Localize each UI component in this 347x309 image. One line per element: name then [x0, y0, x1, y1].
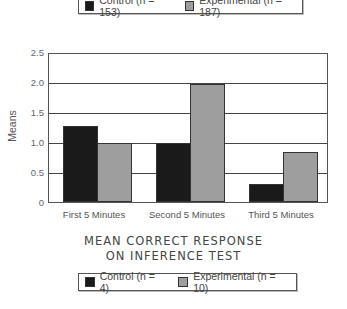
gridline [49, 83, 327, 84]
bar-control [249, 184, 284, 202]
experimental-swatch [185, 1, 194, 11]
y-tick: 2.5 [14, 47, 44, 58]
y-tick: 2.0 [14, 77, 44, 88]
bar-experimental [190, 84, 225, 202]
legend-item-control: Control (n = 153) [85, 0, 171, 18]
legend-top: Control (n = 153) Experimental (n = 187) [78, 0, 303, 14]
control-swatch [85, 277, 95, 287]
bar-control [63, 126, 98, 202]
legend-label: Control (n = 4) [100, 270, 165, 294]
control-swatch [85, 1, 94, 11]
legend-bottom: Control (n = 4) Experimental (n = 10) [78, 273, 297, 291]
plot-area [48, 53, 328, 203]
y-tick: 1.0 [14, 137, 44, 148]
x-tick: Third 5 Minutes [231, 209, 331, 220]
x-tick: Second 5 Minutes [137, 209, 237, 220]
chart-title: MEAN CORRECT RESPONSE ON INFERENCE TEST [0, 234, 347, 264]
title-line-1: MEAN CORRECT RESPONSE [0, 234, 347, 249]
title-line-2: ON INFERENCE TEST [0, 249, 347, 264]
y-tick: 1.5 [14, 107, 44, 118]
bar-experimental [97, 143, 132, 202]
y-tick: 0.5 [14, 167, 44, 178]
legend-label: Control (n = 153) [99, 0, 171, 18]
y-tick: 0 [14, 197, 44, 208]
legend-label: Experimental (n = 10) [193, 270, 290, 294]
x-tick: First 5 Minutes [44, 209, 144, 220]
legend-item-experimental: Experimental (n = 187) [185, 0, 296, 18]
legend-item-control: Control (n = 4) [85, 270, 164, 294]
experimental-swatch [178, 277, 188, 287]
gridline [49, 113, 327, 114]
legend-item-experimental: Experimental (n = 10) [178, 270, 290, 294]
bar-experimental [283, 152, 318, 202]
bar-control [156, 143, 191, 202]
legend-label: Experimental (n = 187) [199, 0, 296, 18]
